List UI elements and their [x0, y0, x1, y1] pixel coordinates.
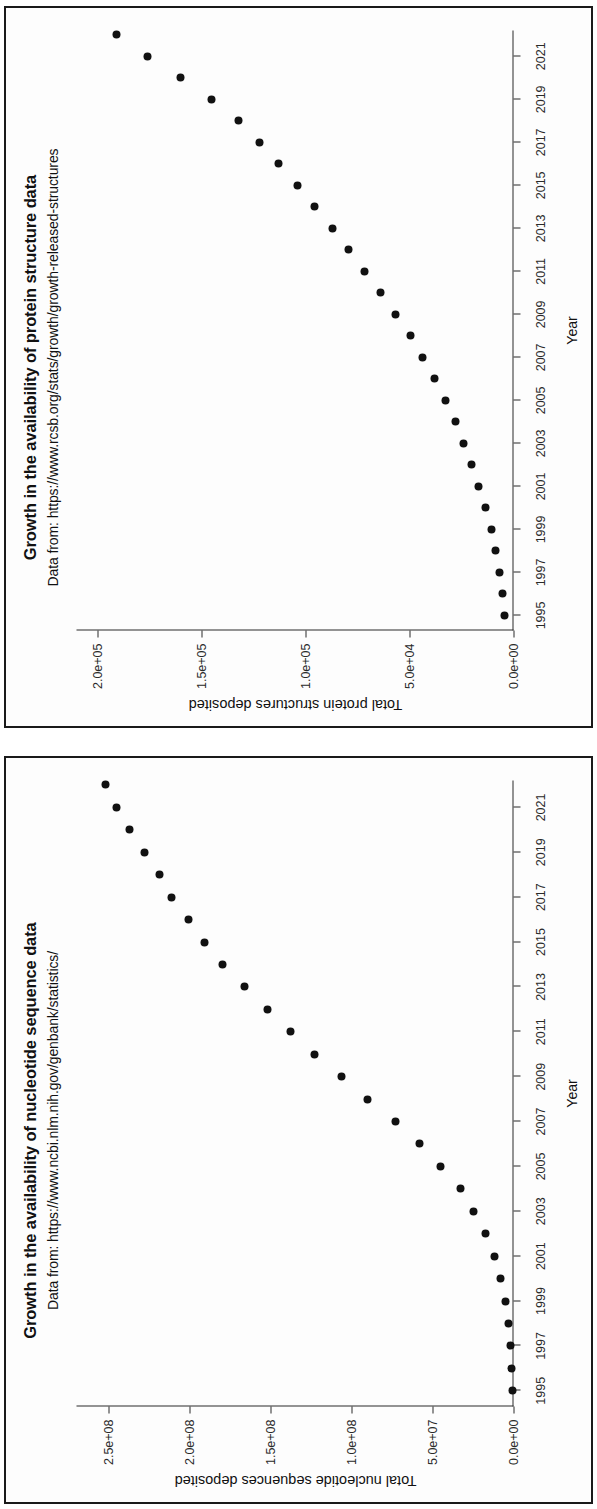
data-point [481, 503, 489, 511]
x-tick-mark [513, 485, 520, 486]
data-point [415, 1139, 423, 1147]
x-tick-mark [513, 270, 520, 271]
data-point [167, 893, 175, 901]
x-tick-mark [513, 528, 520, 529]
y-tick-label: 1.0e+05 [298, 643, 312, 689]
nucleotide-sequence-panel: Growth in the availability of nucleotide… [4, 756, 593, 1504]
data-point [491, 546, 499, 554]
data-point [337, 1072, 345, 1080]
x-tick-label: 2011 [533, 1018, 547, 1045]
x-tick-label: 1995 [533, 601, 547, 629]
y-tick-mark [513, 630, 514, 637]
data-point [143, 52, 151, 60]
data-point [506, 1341, 514, 1349]
data-point [406, 331, 414, 339]
data-point [496, 1274, 504, 1282]
x-tick-mark [513, 227, 520, 228]
x-tick-mark [513, 1165, 520, 1166]
data-point [184, 915, 192, 923]
data-point [418, 353, 426, 361]
x-axis-label-nucleotide: Year [563, 780, 579, 1406]
x-tick-mark [513, 356, 520, 357]
y-axis-line [76, 1405, 513, 1406]
x-tick-label: 2009 [533, 300, 547, 328]
data-point [240, 982, 248, 990]
data-point [207, 95, 215, 103]
data-point [459, 439, 467, 447]
x-tick-mark [513, 1210, 520, 1211]
x-tick-mark [513, 985, 520, 986]
data-point [501, 1297, 509, 1305]
x-tick-label: 2017 [533, 128, 547, 156]
chart-title-nucleotide: Growth in the availability of nucleotide… [20, 758, 39, 1502]
data-point [500, 611, 508, 619]
data-point [360, 267, 368, 275]
x-tick-label: 2017 [533, 883, 547, 911]
x-tick-label: 2005 [533, 386, 547, 414]
y-tick-mark [432, 1406, 433, 1413]
y-tick-label: 5.0e+07 [425, 1419, 439, 1465]
x-tick-mark [513, 1300, 520, 1301]
plot-area-nucleotide: Year Total nucleotide sequences deposite… [76, 780, 513, 1406]
data-point [101, 781, 109, 789]
y-axis-label-nucleotide: Total nucleotide sequences deposited [174, 1472, 416, 1488]
data-point [140, 848, 148, 856]
x-tick-label: 1995 [533, 1376, 547, 1404]
y-tick-mark [97, 630, 98, 637]
y-tick-mark [305, 630, 306, 637]
x-tick-label: 2015 [533, 171, 547, 199]
x-tick-label: 2019 [533, 85, 547, 113]
x-tick-label: 2021 [533, 793, 547, 821]
y-tick-label: 1.5e+05 [194, 643, 208, 689]
data-point [391, 1117, 399, 1125]
x-tick-label: 2005 [533, 1152, 547, 1180]
x-tick-mark [513, 1255, 520, 1256]
data-point [504, 1319, 512, 1327]
y-tick-mark [201, 630, 202, 637]
x-tick-label: 1999 [533, 515, 547, 543]
y-tick-mark [351, 1406, 352, 1413]
data-point [218, 960, 226, 968]
y-tick-mark [108, 1406, 109, 1413]
x-axis-line [512, 30, 513, 630]
data-point [436, 1162, 444, 1170]
y-tick-mark [189, 1406, 190, 1413]
rotation-stage-bottom: Growth in the availability of nucleotide… [6, 758, 591, 1502]
x-tick-mark [513, 1075, 520, 1076]
y-tick-label: 2.0e+05 [90, 643, 104, 689]
x-tick-mark [513, 442, 520, 443]
x-tick-label: 1997 [533, 1332, 547, 1360]
x-tick-label: 2007 [533, 343, 547, 371]
y-tick-label: 5.0e+04 [402, 643, 416, 689]
data-point [363, 1095, 371, 1103]
x-tick-label: 2021 [533, 42, 547, 70]
x-tick-mark [513, 941, 520, 942]
data-point [274, 159, 282, 167]
x-tick-mark [513, 98, 520, 99]
data-point [310, 1050, 318, 1058]
x-tick-label: 1999 [533, 1287, 547, 1315]
data-point [481, 1229, 489, 1237]
data-point [376, 288, 384, 296]
x-axis-label-protein: Year [563, 30, 579, 630]
x-tick-mark [513, 896, 520, 897]
data-point [112, 803, 120, 811]
x-tick-label: 2001 [533, 472, 547, 500]
x-tick-mark [513, 571, 520, 572]
data-point [286, 1027, 294, 1035]
x-tick-mark [513, 1030, 520, 1031]
x-tick-label: 2013 [533, 214, 547, 242]
x-tick-label: 2003 [533, 429, 547, 457]
x-tick-label: 2001 [533, 1242, 547, 1270]
data-point [112, 30, 120, 38]
data-point [487, 525, 495, 533]
data-point [155, 870, 163, 878]
x-tick-label: 2015 [533, 928, 547, 956]
data-point [293, 181, 301, 189]
y-axis-line [76, 629, 513, 630]
x-tick-label: 1997 [533, 558, 547, 586]
y-tick-label: 1.5e+08 [263, 1419, 277, 1465]
x-tick-mark [513, 399, 520, 400]
data-point [507, 1364, 515, 1372]
x-tick-mark [513, 851, 520, 852]
